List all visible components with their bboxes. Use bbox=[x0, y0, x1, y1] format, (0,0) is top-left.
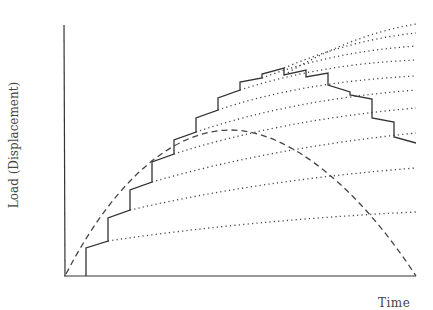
x-axis-label: Time bbox=[378, 296, 410, 310]
stepped-response bbox=[86, 68, 416, 276]
axes bbox=[64, 25, 416, 276]
dashed-half-sine bbox=[66, 130, 416, 276]
y-axis-label: Load (Displacement) bbox=[2, 60, 26, 230]
y-axis-label-text: Load (Displacement) bbox=[7, 82, 21, 208]
y-axis bbox=[64, 25, 65, 276]
chart-plot bbox=[0, 0, 433, 310]
dotted-creep-curves bbox=[108, 24, 416, 241]
